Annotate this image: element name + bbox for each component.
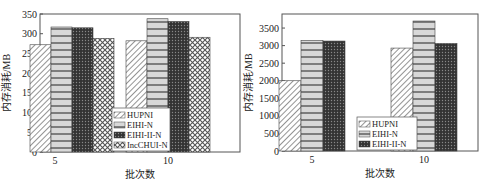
bar bbox=[435, 44, 457, 151]
x-axis-label: 批次数 bbox=[125, 168, 155, 180]
legend-label: EIHI-II-N bbox=[372, 139, 406, 149]
legend-swatch bbox=[359, 131, 370, 137]
x-tick-label: 10 bbox=[419, 154, 429, 165]
y-tick-label: 1500 bbox=[259, 93, 279, 104]
bar bbox=[51, 27, 72, 152]
y-axis-label: 内存消耗/MB bbox=[242, 53, 254, 112]
legend-swatch bbox=[114, 112, 125, 118]
x-tick-label: 5 bbox=[53, 155, 58, 166]
bar bbox=[168, 21, 189, 152]
y-tick-label: 3500 bbox=[259, 23, 279, 34]
charts-svg: 050100150200250300350510批次数内存消耗/MBHUPNIE… bbox=[0, 0, 490, 180]
y-tick-label: 0 bbox=[274, 146, 279, 157]
bar bbox=[301, 40, 323, 151]
y-axis-label: 内存消耗/MB bbox=[0, 54, 12, 113]
legend-label: IncCHUI-N bbox=[127, 140, 168, 150]
y-tick-label: 2000 bbox=[259, 75, 279, 86]
legend-label: HUPNI bbox=[127, 110, 153, 120]
bar bbox=[30, 45, 51, 152]
bar bbox=[279, 81, 301, 151]
legend-swatch bbox=[359, 121, 370, 127]
legend-swatch bbox=[114, 122, 125, 128]
legend-swatch bbox=[114, 142, 125, 148]
y-tick-label: 350 bbox=[22, 9, 37, 20]
legend-swatch bbox=[359, 141, 370, 147]
y-tick-label: 2500 bbox=[259, 58, 279, 69]
legend-label: EIHI-N bbox=[372, 129, 398, 139]
y-tick-label: 500 bbox=[264, 128, 279, 139]
bar bbox=[189, 37, 210, 152]
chart-figure: 050100150200250300350510批次数内存消耗/MBHUPNIE… bbox=[0, 0, 490, 180]
y-tick-label: 300 bbox=[22, 28, 37, 39]
left-chart: 050100150200250300350510批次数内存消耗/MBHUPNIE… bbox=[0, 9, 240, 181]
y-tick-label: 3000 bbox=[259, 40, 279, 51]
y-tick-label: 1000 bbox=[259, 110, 279, 121]
legend-swatch bbox=[114, 132, 125, 138]
x-axis-label: 批次数 bbox=[365, 167, 395, 179]
legend-label: EIHI-N bbox=[127, 120, 153, 130]
x-tick-label: 5 bbox=[310, 154, 315, 165]
x-tick-label: 10 bbox=[163, 155, 173, 166]
legend-label: HUPNI bbox=[372, 119, 398, 129]
right-chart: 0500100015002000250030003500510批次数内存消耗/M… bbox=[242, 14, 478, 179]
legend-label: EIHI-II-N bbox=[127, 130, 161, 140]
bar bbox=[323, 41, 345, 151]
bar bbox=[72, 28, 93, 152]
bar bbox=[93, 38, 114, 152]
